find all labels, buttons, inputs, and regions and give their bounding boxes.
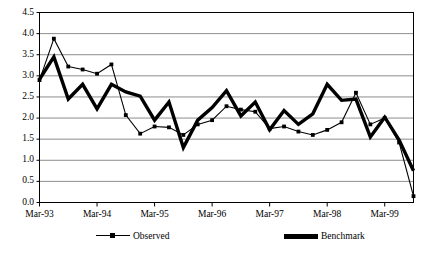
data-point-marker xyxy=(95,72,99,76)
legend-label-benchmark: Benchmark xyxy=(321,231,365,241)
y-axis-tick-label: 3.5 xyxy=(2,49,34,59)
x-axis-tick-label: Mar-98 xyxy=(297,209,357,219)
data-point-marker xyxy=(153,125,157,129)
x-axis-ticks xyxy=(40,203,385,207)
data-point-marker xyxy=(38,78,42,82)
data-point-marker xyxy=(354,91,358,95)
legend-swatch-benchmark-icon xyxy=(284,231,318,241)
data-point-marker xyxy=(383,116,387,120)
x-axis-tick-label: Mar-93 xyxy=(10,209,70,219)
data-point-marker xyxy=(325,128,329,132)
data-point-marker xyxy=(196,122,200,126)
data-point-marker xyxy=(225,104,229,108)
data-point-marker xyxy=(138,132,142,136)
data-point-marker xyxy=(81,68,85,72)
legend-item-observed: Observed xyxy=(96,231,169,241)
data-point-marker xyxy=(297,130,301,134)
data-point-marker xyxy=(167,125,171,129)
line-chart: 4.54.03.53.02.52.01.51.00.50.0 Mar-93Mar… xyxy=(0,0,428,258)
data-point-marker xyxy=(210,118,214,122)
data-point-marker xyxy=(368,122,372,126)
data-point-marker xyxy=(239,108,243,112)
legend-item-benchmark: Benchmark xyxy=(284,231,365,241)
y-axis-tick-label: 2.0 xyxy=(2,112,34,122)
y-axis-tick-label: 0.5 xyxy=(2,175,34,185)
series-line-observed xyxy=(40,39,414,196)
y-axis-tick-label: 0.0 xyxy=(2,197,34,207)
y-axis-tick-label: 4.0 xyxy=(2,28,34,38)
series-markers-observed xyxy=(38,37,416,198)
plot-area xyxy=(0,0,428,258)
data-point-marker xyxy=(340,120,344,124)
data-point-marker xyxy=(282,125,286,129)
data-point-marker xyxy=(397,141,401,145)
legend-label-observed: Observed xyxy=(133,231,169,241)
x-axis-tick-label: Mar-95 xyxy=(125,209,185,219)
data-point-marker xyxy=(253,110,257,114)
y-axis-tick-label: 1.0 xyxy=(2,154,34,164)
data-point-marker xyxy=(124,113,128,117)
x-axis-tick-label: Mar-99 xyxy=(355,209,415,219)
x-axis-tick-label: Mar-97 xyxy=(240,209,300,219)
y-axis-tick-label: 1.5 xyxy=(2,133,34,143)
y-axis-tick-label: 3.0 xyxy=(2,70,34,80)
y-axis-tick-label: 4.5 xyxy=(2,7,34,17)
data-point-marker xyxy=(66,65,70,69)
y-axis-tick-label: 2.5 xyxy=(2,91,34,101)
legend-swatch-observed-icon xyxy=(96,231,130,241)
data-point-marker xyxy=(181,133,185,137)
data-point-marker xyxy=(412,194,416,198)
chart-legend: Observed Benchmark xyxy=(0,231,428,251)
data-point-marker xyxy=(52,37,56,41)
x-axis-tick-label: Mar-96 xyxy=(182,209,242,219)
data-point-marker xyxy=(110,63,114,67)
data-point-marker xyxy=(311,133,315,137)
x-axis-tick-label: Mar-94 xyxy=(67,209,127,219)
data-point-marker xyxy=(268,127,272,131)
